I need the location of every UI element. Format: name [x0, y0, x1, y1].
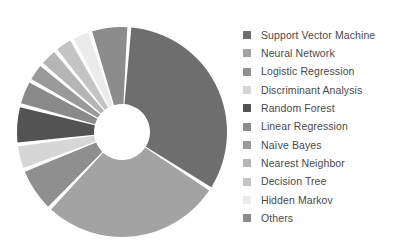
- legend-swatch-icon: [243, 104, 251, 112]
- legend-swatch-icon: [243, 178, 251, 186]
- legend-item-label: Linear Regression: [261, 121, 348, 132]
- legend-item-label: Random Forest: [261, 103, 335, 114]
- legend-item[interactable]: Random Forest: [236, 99, 416, 117]
- legend-item[interactable]: Support Vector Machine: [236, 26, 416, 44]
- legend-item-label: Neural Network: [261, 48, 335, 59]
- legend-item-label: Support Vector Machine: [261, 30, 375, 41]
- legend-swatch-icon: [243, 196, 251, 204]
- legend-item[interactable]: Others: [236, 209, 416, 227]
- legend-swatch-icon: [243, 159, 251, 167]
- legend-item-label: Discriminant Analysis: [261, 85, 362, 96]
- legend-item[interactable]: Hidden Markov: [236, 191, 416, 209]
- chart-legend: Support Vector Machine Neural Network Lo…: [236, 0, 416, 245]
- legend-item-label: Hidden Markov: [261, 195, 333, 206]
- legend-swatch-icon: [243, 49, 251, 57]
- legend-item[interactable]: Decision Tree: [236, 172, 416, 190]
- legend-item-label: Logistic Regression: [261, 66, 355, 77]
- legend-swatch-icon: [243, 86, 251, 94]
- legend-swatch-icon: [243, 68, 251, 76]
- legend-swatch-icon: [243, 214, 251, 222]
- donut-slice-group: [17, 27, 227, 237]
- legend-item[interactable]: Neural Network: [236, 44, 416, 62]
- legend-item[interactable]: Discriminant Analysis: [236, 81, 416, 99]
- chart-figure: Support Vector Machine Neural Network Lo…: [0, 0, 416, 245]
- legend-item[interactable]: Logistic Regression: [236, 63, 416, 81]
- legend-swatch-icon: [243, 31, 251, 39]
- legend-item[interactable]: Naïve Bayes: [236, 136, 416, 154]
- legend-item[interactable]: Linear Regression: [236, 117, 416, 135]
- donut-chart-area: [0, 0, 236, 245]
- legend-swatch-icon: [243, 141, 251, 149]
- legend-item-label: Nearest Neighbor: [261, 158, 345, 169]
- donut-chart: [0, 0, 236, 245]
- legend-item-label: Decision Tree: [261, 176, 327, 187]
- legend-item[interactable]: Nearest Neighbor: [236, 154, 416, 172]
- legend-item-label: Naïve Bayes: [261, 140, 322, 151]
- legend-swatch-icon: [243, 123, 251, 131]
- legend-item-label: Others: [261, 213, 293, 224]
